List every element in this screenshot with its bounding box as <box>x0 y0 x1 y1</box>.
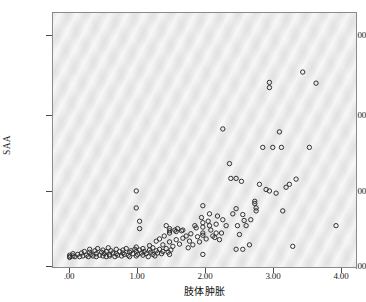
data-point <box>235 223 239 227</box>
data-point <box>189 232 193 236</box>
data-point <box>234 176 238 180</box>
data-point <box>207 223 211 227</box>
data-point <box>261 145 265 149</box>
data-point <box>267 80 271 84</box>
data-point <box>201 252 205 256</box>
data-point <box>184 234 188 238</box>
data-point <box>204 237 208 241</box>
xtick-label-2: 2.00 <box>182 271 228 281</box>
data-point <box>244 223 248 227</box>
data-point <box>229 176 233 180</box>
data-point <box>87 247 91 251</box>
data-point <box>162 234 166 238</box>
data-point <box>214 231 218 235</box>
data-point <box>231 212 235 216</box>
data-point <box>217 238 221 242</box>
data-point <box>237 232 241 236</box>
data-point <box>277 130 281 134</box>
data-point <box>177 242 181 246</box>
data-point <box>215 214 219 218</box>
data-point <box>257 182 261 186</box>
data-point <box>281 209 285 213</box>
x-axis-label: 肢体肿胀 <box>52 283 357 298</box>
data-point <box>241 247 245 251</box>
data-point <box>219 231 223 235</box>
data-point <box>279 145 283 149</box>
data-point <box>224 223 228 227</box>
data-point <box>207 212 211 216</box>
data-point <box>301 70 305 74</box>
data-point <box>247 243 251 247</box>
data-point <box>167 240 171 244</box>
data-point <box>294 177 298 181</box>
data-point <box>214 222 218 226</box>
data-point <box>191 243 195 247</box>
xtick-label-3: 3.00 <box>250 271 296 281</box>
data-point <box>221 127 225 131</box>
data-point <box>134 206 138 210</box>
data-point <box>201 225 205 229</box>
xtick-label-4: 4.00 <box>318 271 364 281</box>
data-point <box>161 243 165 247</box>
data-point <box>227 161 231 165</box>
data-point <box>291 244 295 248</box>
data-point <box>171 244 175 248</box>
data-point <box>137 226 141 230</box>
data-point <box>157 237 161 241</box>
xtick-label-1: 1.00 <box>114 271 160 281</box>
plot-area <box>52 12 357 268</box>
data-point <box>239 179 243 183</box>
data-point <box>241 212 245 216</box>
data-point <box>197 240 201 244</box>
data-point <box>271 145 275 149</box>
scatter-plot-figure: 300.00 200.00 100.00 .00 SAA .00 1.00 2.… <box>0 0 366 302</box>
y-axis-label: SAA <box>2 122 12 168</box>
data-point <box>199 215 203 219</box>
data-point <box>201 221 205 225</box>
data-point <box>314 81 318 85</box>
data-point <box>334 223 338 227</box>
data-point <box>307 145 311 149</box>
data-points-layer <box>53 13 356 267</box>
data-point <box>201 204 205 208</box>
data-point <box>249 218 253 222</box>
data-point <box>274 191 278 195</box>
data-point <box>195 235 199 239</box>
data-point <box>209 228 213 232</box>
data-point <box>234 206 238 210</box>
xtick-label-0: .00 <box>46 271 92 281</box>
data-point <box>174 238 178 242</box>
data-point <box>267 85 271 89</box>
data-point <box>134 189 138 193</box>
data-point <box>187 239 191 243</box>
data-point <box>242 218 246 222</box>
data-point <box>234 247 238 251</box>
data-point <box>206 219 210 223</box>
data-point <box>186 246 190 250</box>
data-point <box>137 219 141 223</box>
data-point <box>287 182 291 186</box>
data-point <box>254 206 258 210</box>
data-point <box>221 218 225 222</box>
